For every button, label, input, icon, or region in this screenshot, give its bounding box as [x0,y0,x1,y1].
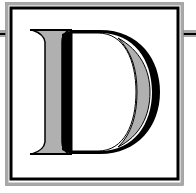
letter-d [30,29,160,155]
drop-cap-monogram [0,0,196,193]
monogram-graphic [0,0,196,193]
